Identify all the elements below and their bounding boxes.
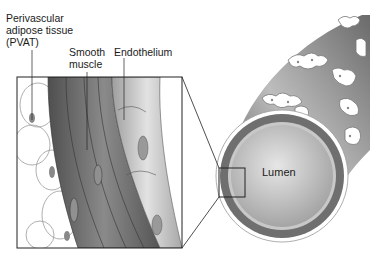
smooth-muscle-label: Smooth muscle	[69, 46, 105, 70]
smooth-muscle-line1: Smooth	[69, 46, 105, 58]
pvat-label: Perivascular adipose tissue (PVAT)	[6, 12, 73, 48]
pvat-label-line1: Perivascular	[6, 12, 73, 24]
smooth-muscle-line2: muscle	[69, 58, 105, 70]
pvat-label-line2: adipose tissue	[6, 24, 73, 36]
endothelium-label: Endothelium	[114, 46, 172, 58]
pvat-label-line3: (PVAT)	[6, 36, 73, 48]
inset-detail	[14, 77, 182, 249]
lumen-label: Lumen	[262, 166, 296, 178]
